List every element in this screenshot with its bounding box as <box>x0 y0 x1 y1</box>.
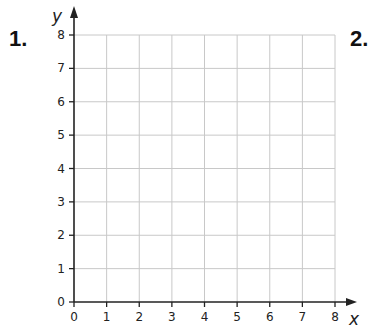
x-tick-label: 3 <box>168 310 176 324</box>
y-tick-label: 5 <box>57 128 65 142</box>
y-axis-arrow-icon <box>70 6 78 18</box>
x-tick-label: 1 <box>103 310 111 324</box>
x-axis-label: x <box>348 309 360 329</box>
y-axis-label: y <box>51 6 63 26</box>
y-tick-label: 6 <box>57 95 65 109</box>
x-axis-arrow-icon <box>346 298 357 306</box>
y-tick-label: 7 <box>57 61 65 75</box>
y-tick-label: 1 <box>57 262 65 276</box>
x-tick-label: 7 <box>299 310 307 324</box>
y-tick-label: 4 <box>57 162 65 176</box>
y-tick-label: 3 <box>57 195 65 209</box>
x-tick-label: 2 <box>135 310 143 324</box>
x-tick-label: 5 <box>233 310 241 324</box>
x-tick-label: 4 <box>201 310 209 324</box>
x-tick-label: 8 <box>331 310 339 324</box>
x-tick-label: 6 <box>266 310 274 324</box>
y-tick-label: 0 <box>57 295 65 309</box>
y-tick-label: 8 <box>57 28 65 42</box>
x-tick-label: 0 <box>70 310 78 324</box>
y-tick-label: 2 <box>57 228 65 242</box>
coordinate-grid: 012345678012345678xy <box>0 0 379 330</box>
